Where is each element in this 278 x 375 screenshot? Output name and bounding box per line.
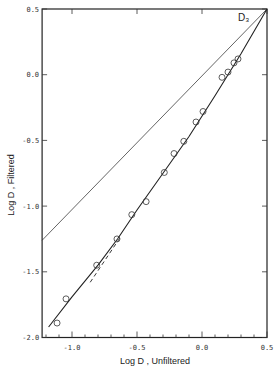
- y-axis-ticks: 0.50.0-0.5-1.0-1.5-2.0: [22, 6, 267, 343]
- data-point: [54, 320, 60, 326]
- data-point: [63, 296, 69, 302]
- x-tick-label: 0.0: [196, 344, 209, 352]
- y-tick-label: -1.0: [22, 203, 39, 211]
- data-point: [171, 151, 177, 157]
- x-tick-label: -1.0: [64, 344, 81, 352]
- x-axis-ticks: -1.0-0.50.00.5: [46, 9, 273, 352]
- series-annotation: D₃: [238, 12, 249, 23]
- chart: -1.0-0.50.00.5 0.50.0-0.5-1.0-1.5-2.0 Lo…: [0, 0, 278, 375]
- dashed-extrapolation-line: [90, 238, 120, 283]
- plot-border: [42, 9, 267, 338]
- data-point: [161, 169, 167, 175]
- data-point: [219, 74, 225, 80]
- y-axis-label: Log D , Filtered: [6, 154, 16, 216]
- x-axis-label: Log D , Unfiltered: [120, 356, 190, 366]
- plot-lines: [42, 9, 267, 327]
- x-tick-label: -0.5: [129, 344, 146, 352]
- y-tick-label: 0.0: [26, 71, 39, 79]
- x-tick-label: 0.5: [261, 344, 274, 352]
- y-tick-label: -1.5: [22, 268, 39, 276]
- fitted-curve: [49, 9, 267, 327]
- y-tick-label: 0.5: [26, 6, 39, 14]
- data-point: [143, 199, 149, 205]
- y-tick-label: -2.0: [22, 334, 39, 342]
- plot-frame: [42, 9, 267, 338]
- y-tick-label: -0.5: [22, 137, 39, 145]
- data-points: [54, 56, 241, 326]
- identity-line: [42, 9, 267, 240]
